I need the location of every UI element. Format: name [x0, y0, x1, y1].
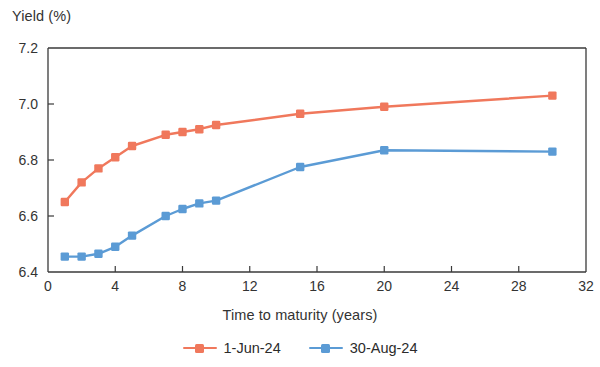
series-marker: [296, 163, 304, 171]
series-marker: [195, 199, 203, 207]
series-marker: [178, 128, 186, 136]
legend-swatch-icon: [309, 342, 343, 354]
series-marker: [195, 125, 203, 133]
plot-area: [0, 0, 600, 367]
series-line: [65, 96, 553, 202]
chart-container: Yield (%) Time to maturity (years) 6.46.…: [0, 0, 600, 367]
series-marker: [161, 212, 169, 220]
series-marker: [212, 121, 220, 129]
series-marker: [296, 110, 304, 118]
series-marker: [94, 250, 102, 258]
series-marker: [161, 131, 169, 139]
data-series-group: [61, 91, 557, 260]
series-marker: [61, 252, 69, 260]
series-marker: [380, 103, 388, 111]
series-marker: [77, 252, 85, 260]
data-series: [61, 146, 557, 261]
series-marker: [77, 178, 85, 186]
chart-legend: 1-Jun-2430-Aug-24: [0, 340, 600, 356]
series-marker: [128, 142, 136, 150]
legend-label: 30-Aug-24: [350, 340, 418, 356]
series-marker: [128, 231, 136, 239]
legend-item[interactable]: 1-Jun-24: [183, 340, 281, 356]
series-marker: [380, 146, 388, 154]
series-marker: [212, 196, 220, 204]
series-marker: [548, 147, 556, 155]
series-line: [65, 150, 553, 256]
legend-label: 1-Jun-24: [224, 340, 281, 356]
series-marker: [94, 164, 102, 172]
series-marker: [111, 243, 119, 251]
data-series: [61, 91, 557, 206]
series-marker: [111, 153, 119, 161]
series-marker: [548, 91, 556, 99]
legend-item[interactable]: 30-Aug-24: [309, 340, 418, 356]
series-marker: [61, 198, 69, 206]
series-marker: [178, 205, 186, 213]
legend-swatch-icon: [183, 342, 217, 354]
